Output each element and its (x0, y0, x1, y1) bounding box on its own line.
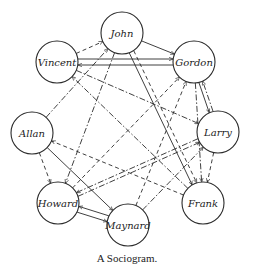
node-maynard: Maynard (104, 204, 150, 246)
node-label: John (109, 28, 134, 39)
node-label: Vincent (38, 57, 78, 68)
edge-larry-to-frank (207, 153, 213, 183)
node-label: Frank (187, 198, 218, 209)
node-label: Howard (37, 198, 78, 209)
edge-howard-to-larry (78, 142, 200, 196)
figure-caption: A Sociogram. (0, 252, 254, 264)
node-label: Allan (18, 128, 45, 139)
node-gordon: Gordon (173, 41, 215, 83)
nodes-layer: JohnVincentGordonAllanLarryHowardFrankMa… (11, 12, 239, 246)
edge-john-to-gordon (141, 41, 174, 54)
edge-gordon-to-larry (199, 83, 209, 113)
node-allan: Allan (11, 112, 53, 154)
node-label: Maynard (104, 220, 150, 231)
node-label: Gordon (175, 57, 213, 68)
node-label: Larry (203, 127, 232, 138)
edge-larry-to-gordon (203, 81, 213, 111)
node-howard: Howard (37, 182, 79, 224)
edge-maynard-to-gordon (136, 81, 186, 205)
sociogram-diagram: JohnVincentGordonAllanLarryHowardFrankMa… (0, 0, 254, 270)
node-larry: Larry (197, 111, 239, 153)
node-john: John (101, 12, 143, 54)
node-vincent: Vincent (36, 41, 78, 83)
edge-allan-to-howard (39, 153, 50, 184)
node-frank: Frank (182, 182, 224, 224)
edge-howard-to-gordon (73, 77, 180, 188)
edge-vincent-to-john (76, 42, 103, 54)
